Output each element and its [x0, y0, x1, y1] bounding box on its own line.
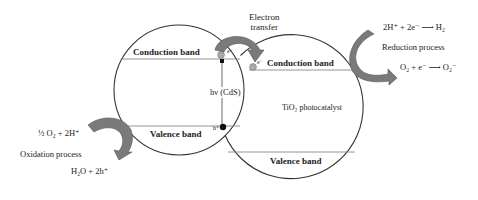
oxidation-arrow-icon — [88, 118, 132, 160]
electron-transfer-line2: transfer — [249, 22, 280, 32]
electron-transfer-line1: Electron — [249, 12, 280, 22]
oxidation-equation-2: H₂O + 2h⁺ — [71, 167, 108, 176]
cds-valence-band-label: Valence band — [150, 130, 201, 139]
reduction-equation-2: O₂ + e⁻ ⟶ O₂⁻ — [400, 63, 456, 72]
tio2-conduction-band-label: Conduction band — [267, 59, 334, 68]
excitation-label: hν (CdS) — [210, 87, 241, 98]
excitation-marker-icon — [220, 59, 224, 63]
tio2-valence-band-label: Valence band — [270, 157, 321, 166]
cds-electron-label: e⁻ — [227, 48, 233, 54]
cds-conduction-band-label: Conduction band — [133, 48, 200, 57]
hole-icon — [220, 124, 226, 130]
electron-transfer-label: Electron transfer — [249, 12, 280, 32]
tio2-electron-icon — [250, 64, 257, 71]
tio2-photocatalyst-label: TiO₂ photocatalyst — [282, 104, 342, 112]
cds-electron-icon — [218, 52, 225, 59]
reduction-process-label: Reduction process — [382, 43, 445, 52]
oxidation-equation-1: ½ O₂ + 2H⁺ — [38, 129, 80, 138]
tio2-electron-label: e⁻ — [257, 59, 263, 65]
hole-label: h⁺ — [213, 125, 219, 131]
reduction-equation-1: 2H⁺ + 2e⁻ ⟶ H₂ — [383, 23, 445, 32]
oxidation-process-label: Oxidation process — [20, 150, 82, 159]
